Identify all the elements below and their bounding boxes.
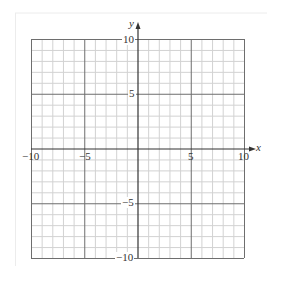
y-tick-label-neg10: −10 — [115, 252, 134, 263]
y-tick-label-neg5: −5 — [121, 197, 135, 208]
y-tick-label-10: 10 — [122, 34, 135, 45]
x-axis-arrow-icon — [249, 147, 256, 152]
grid-svg — [0, 0, 281, 281]
axes — [31, 22, 256, 258]
x-tick-label-10: 10 — [237, 151, 250, 162]
x-tick-label-neg10: −10 — [21, 151, 40, 162]
y-axis-arrow-icon — [136, 22, 141, 29]
x-axis-label: x — [256, 142, 261, 153]
x-tick-label-neg5: −5 — [78, 151, 92, 162]
y-axis-label: y — [129, 18, 134, 29]
coordinate-plane: 10 5 −5 −10 −10 −5 5 10 y x — [0, 0, 281, 281]
x-tick-label-5: 5 — [187, 151, 195, 162]
y-tick-label-5: 5 — [128, 88, 136, 99]
